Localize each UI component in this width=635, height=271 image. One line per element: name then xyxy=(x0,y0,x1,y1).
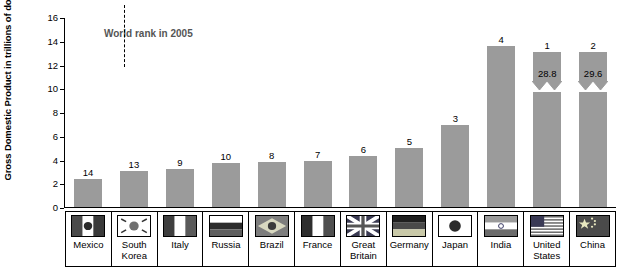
y-tick xyxy=(60,89,64,90)
bar xyxy=(395,148,423,207)
bar-cell: 7 xyxy=(295,18,341,207)
bar xyxy=(166,169,194,207)
china-flag xyxy=(576,215,610,237)
bar xyxy=(349,156,377,207)
legend-cell: Mexico xyxy=(66,212,112,266)
mexico-flag xyxy=(71,215,105,237)
y-tick xyxy=(60,42,64,43)
rank-label: 2 xyxy=(590,40,595,51)
france-flag xyxy=(301,215,335,237)
bar-cell: 14 xyxy=(65,18,111,207)
rank-label: 4 xyxy=(499,34,504,45)
legend-cell: South Korea xyxy=(112,212,158,266)
rank-label: 13 xyxy=(129,159,140,170)
y-tick xyxy=(60,137,64,138)
legend-cell: Italy xyxy=(158,212,204,266)
bar xyxy=(258,162,286,207)
legend-cell: Russia xyxy=(203,212,249,266)
axis-break-zigzag xyxy=(532,78,562,89)
bar-cell: 229.6 xyxy=(570,18,616,207)
gdp-bar-chart: Gross Domestic Product in trillions of d… xyxy=(0,0,635,271)
country-flag-legend: MexicoSouth KoreaItalyRussiaBrazilFrance… xyxy=(65,211,616,267)
legend-cell: Germany xyxy=(387,212,433,266)
y-tick-label: 14 xyxy=(42,36,58,47)
bar-cell: 9 xyxy=(157,18,203,207)
y-tick-label: 0 xyxy=(42,202,58,213)
legend-cell: Brazil xyxy=(249,212,295,266)
bar-cell: 128.8 xyxy=(524,18,570,207)
legend-cell: China xyxy=(570,212,615,266)
plot-area: 0246810121416 1413910876534128.8229.6 xyxy=(64,18,616,208)
bar-cell: 6 xyxy=(341,18,387,207)
rank-label: 6 xyxy=(361,144,366,155)
italy-flag xyxy=(163,215,197,237)
country-label: Brazil xyxy=(260,240,284,251)
bar-cell: 5 xyxy=(386,18,432,207)
y-tick xyxy=(60,66,64,67)
great-britain-flag xyxy=(346,215,380,237)
legend-cell: United States xyxy=(524,212,570,266)
legend-cell: India xyxy=(478,212,524,266)
y-tick xyxy=(60,113,64,114)
y-tick xyxy=(60,208,64,209)
y-tick-label: 12 xyxy=(42,60,58,71)
united-states-flag xyxy=(530,215,564,237)
bar xyxy=(441,125,469,207)
y-tick xyxy=(60,184,64,185)
rank-label: 3 xyxy=(453,113,458,124)
axis-break-zigzag xyxy=(578,78,608,89)
y-tick-label: 6 xyxy=(42,131,58,142)
rank-label: 8 xyxy=(269,150,274,161)
country-label: South Korea xyxy=(122,240,147,261)
rank-label: 7 xyxy=(315,149,320,160)
country-label: Russia xyxy=(211,240,240,251)
legend-cell: Great Britain xyxy=(341,212,387,266)
bar-cell: 4 xyxy=(478,18,524,207)
bar-cell: 10 xyxy=(203,18,249,207)
country-label: Japan xyxy=(442,240,468,251)
rank-label: 5 xyxy=(407,136,412,147)
y-tick xyxy=(60,18,64,19)
russia-flag xyxy=(209,215,243,237)
bar-series: 1413910876534128.8229.6 xyxy=(65,18,616,207)
legend-cell: Japan xyxy=(433,212,479,266)
bar xyxy=(120,171,148,207)
country-label: Great Britain xyxy=(350,240,377,261)
india-flag xyxy=(484,215,518,237)
rank-label: 9 xyxy=(177,157,182,168)
bar: 28.8 xyxy=(533,52,561,207)
rank-label: 10 xyxy=(220,151,231,162)
country-label: Germany xyxy=(390,240,429,251)
bar-cell: 8 xyxy=(249,18,295,207)
south-korea-flag xyxy=(117,215,151,237)
japan-flag xyxy=(438,215,472,237)
bar-cell: 13 xyxy=(111,18,157,207)
rank-label: 1 xyxy=(545,40,550,51)
brazil-flag xyxy=(255,215,289,237)
bar: 29.6 xyxy=(579,52,607,207)
y-tick-label: 4 xyxy=(42,155,58,166)
germany-flag xyxy=(392,215,426,237)
bar-cell: 3 xyxy=(432,18,478,207)
bar xyxy=(74,179,102,208)
country-label: Mexico xyxy=(73,240,103,251)
y-tick-label: 16 xyxy=(42,12,58,23)
bar xyxy=(212,163,240,207)
y-tick-label: 10 xyxy=(42,83,58,94)
country-label: China xyxy=(580,240,605,251)
bar xyxy=(487,46,515,208)
country-label: France xyxy=(303,240,333,251)
bar xyxy=(304,161,332,207)
x-axis-line xyxy=(64,207,616,208)
y-tick-label: 2 xyxy=(42,178,58,189)
rank-label: 14 xyxy=(83,167,94,178)
country-label: Italy xyxy=(171,240,188,251)
legend-cell: France xyxy=(295,212,341,266)
y-tick xyxy=(60,161,64,162)
y-tick-label: 8 xyxy=(42,107,58,118)
country-label: United States xyxy=(533,240,560,261)
y-axis-label: Gross Domestic Product in trillions of d… xyxy=(2,0,16,216)
country-label: India xyxy=(491,240,512,251)
